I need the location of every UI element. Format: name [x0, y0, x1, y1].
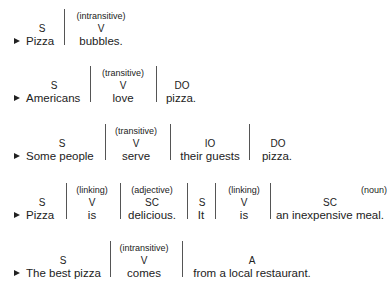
word-indirect-object: their guests — [180, 151, 239, 163]
divider — [64, 9, 65, 45]
label-subject: S — [59, 139, 66, 149]
bullet-arrow-icon — [14, 270, 20, 276]
bullet-arrow-icon — [14, 95, 20, 101]
word-subject: Some people — [26, 151, 94, 163]
label-subject-complement: SC — [323, 198, 337, 208]
word-subject-complement: delicious. — [128, 210, 176, 222]
label-verb: V — [89, 198, 96, 208]
bullet-arrow-icon — [14, 212, 20, 218]
word-subject: The best pizza — [26, 268, 101, 280]
label-adverbial: A — [249, 256, 256, 266]
divider — [215, 183, 216, 219]
word-verb: is — [240, 210, 248, 222]
note-verb-type: (transitive) — [115, 127, 157, 136]
word-verb: comes — [127, 268, 161, 280]
note-verb-type: (transitive) — [102, 69, 144, 78]
label-subject: S — [199, 198, 206, 208]
bullet-arrow-icon — [14, 153, 20, 159]
label-verb: V — [241, 198, 248, 208]
label-subject: S — [39, 24, 46, 34]
divider — [90, 66, 91, 102]
label-verb: V — [98, 24, 105, 34]
word-subject: It — [198, 210, 204, 222]
divider — [110, 241, 111, 277]
divider — [270, 183, 271, 219]
label-direct-object: DO — [175, 81, 190, 91]
label-subject: S — [39, 198, 46, 208]
word-verb: love — [112, 93, 133, 105]
label-indirect-object: IO — [205, 139, 216, 149]
word-subject: Americans — [26, 93, 80, 105]
word-subject: Pizza — [26, 36, 54, 48]
divider — [105, 124, 106, 160]
divider — [156, 66, 157, 102]
word-subject: Pizza — [26, 210, 54, 222]
divider — [187, 183, 188, 219]
word-adverbial: from a local restaurant. — [193, 268, 311, 280]
label-direct-object: DO — [271, 139, 286, 149]
label-subject: S — [51, 81, 58, 91]
note-verb-type: (intransitive) — [76, 12, 125, 21]
note-complement-type: (noun) — [361, 186, 387, 195]
bullet-arrow-icon — [14, 38, 20, 44]
label-subject-complement: SC — [145, 198, 159, 208]
word-subject-complement: an inexpensive meal. — [276, 210, 384, 222]
label-verb: V — [133, 139, 140, 149]
label-verb: V — [141, 256, 148, 266]
label-subject: S — [60, 256, 67, 266]
label-verb: V — [120, 81, 127, 91]
note-verb-type: (intransitive) — [119, 244, 168, 253]
note-verb-type: (linking) — [76, 186, 108, 195]
divider — [170, 124, 171, 160]
divider — [182, 241, 183, 277]
word-verb: bubbles. — [79, 36, 122, 48]
divider — [66, 183, 67, 219]
word-verb: serve — [122, 151, 150, 163]
note-complement-type: (adjective) — [131, 186, 173, 195]
note-verb-type: (linking) — [228, 186, 260, 195]
word-verb: is — [88, 210, 96, 222]
word-direct-object: pizza. — [262, 151, 292, 163]
divider — [120, 183, 121, 219]
divider — [249, 124, 250, 160]
word-direct-object: pizza. — [166, 93, 196, 105]
